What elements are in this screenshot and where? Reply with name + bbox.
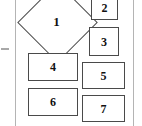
node-6-label: 6 — [50, 96, 56, 108]
left-edge-tick-mark — [1, 48, 9, 50]
node-5-box[interactable]: 5 — [82, 62, 125, 89]
node-5-label: 5 — [101, 70, 107, 82]
node-3-box[interactable]: 3 — [89, 27, 119, 56]
diagram-canvas: 1 2 3 4 5 6 7 — [0, 0, 142, 126]
node-2-box[interactable]: 2 — [91, 0, 118, 20]
node-6-box[interactable]: 6 — [28, 88, 78, 116]
node-1-diamond[interactable]: 1 — [29, 0, 84, 49]
left-vertical-rule — [15, 0, 16, 126]
right-vertical-rule — [133, 0, 134, 126]
node-4-label: 4 — [50, 61, 56, 73]
node-2-label: 2 — [102, 2, 108, 14]
node-7-box[interactable]: 7 — [82, 95, 125, 122]
node-1-label: 1 — [29, 0, 84, 49]
node-3-label: 3 — [101, 36, 107, 48]
node-7-label: 7 — [101, 103, 107, 115]
node-4-box[interactable]: 4 — [28, 53, 78, 81]
